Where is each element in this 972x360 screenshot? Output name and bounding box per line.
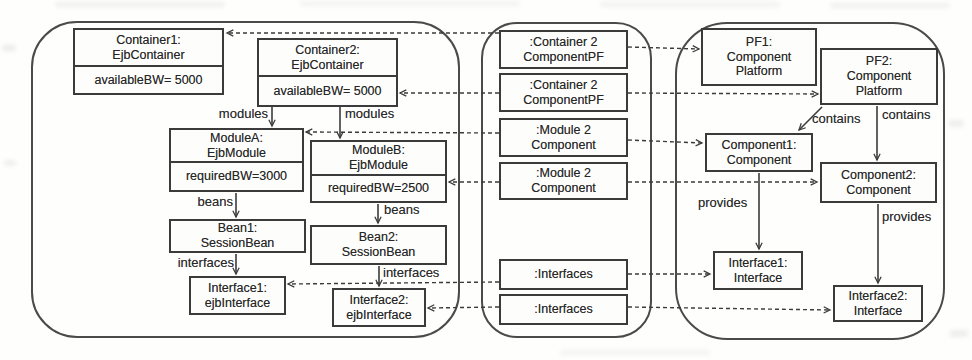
- node-moduleA-type: EjbModule: [171, 146, 302, 161]
- node-component2-name: Component2:: [822, 168, 935, 183]
- node-container2-attribute: availableBW= 5000: [259, 84, 396, 99]
- corr-box-4-line2: Component: [501, 181, 626, 196]
- node-moduleB-type: EjbModule: [312, 158, 445, 173]
- node-container2-name: Container2:: [259, 43, 396, 58]
- node-moduleB-attribute: requiredBW=2500: [312, 181, 445, 196]
- scan-artifact: [950, 330, 968, 337]
- scan-artifact: [55, 2, 225, 7]
- node-moduleA: ModuleA: EjbModule requiredBW=3000: [169, 128, 304, 192]
- node-pf1: PF1: Component Platform: [701, 28, 817, 86]
- figure-canvas: Container1: EjbContainer availableBW= 50…: [0, 0, 972, 360]
- node-moduleB-title: ModuleB: EjbModule: [312, 142, 445, 176]
- edge-label-contains-left: contains: [812, 112, 874, 126]
- node-comp-interface1: Interface1: Interface: [713, 251, 803, 290]
- node-comp-interface2-name: Interface2:: [835, 289, 921, 304]
- node-ejb-interface2: Interface2: ejbInterface: [332, 288, 426, 327]
- corr-box-container2componentpf-1: :Container 2 ComponentPF: [499, 30, 628, 69]
- node-component1-type: Component: [707, 153, 811, 168]
- corr-box-2-line1: :Container 2: [501, 78, 626, 93]
- scan-artifact: [2, 45, 16, 51]
- node-component1-name: Component1:: [707, 138, 811, 153]
- edge-label-provides-left: provides: [698, 196, 756, 210]
- corr-box-5-line1: :Interfaces: [501, 267, 626, 282]
- corr-box-container2componentpf-2: :Container 2 ComponentPF: [499, 73, 628, 112]
- node-component1: Component1: Component: [705, 133, 813, 172]
- node-ejb-interface2-type: ejbInterface: [334, 308, 424, 323]
- corr-box-1-line2: ComponentPF: [501, 50, 626, 65]
- corr-box-interfaces-1: :Interfaces: [499, 259, 628, 290]
- node-container1-type: EjbContainer: [75, 48, 222, 63]
- node-ejb-interface2-name: Interface2:: [334, 293, 424, 308]
- node-pf2-name: PF2:: [822, 54, 936, 69]
- node-bean2-name: Bean2:: [312, 230, 445, 245]
- node-moduleA-title: ModuleA: EjbModule: [171, 130, 302, 163]
- edge-label-interfaces-right: interfaces: [383, 266, 457, 280]
- edge-label-modules-right: modules: [345, 107, 415, 121]
- corr-box-3-line2: Component: [501, 138, 626, 153]
- corr-box-3-line1: :Module 2: [501, 123, 626, 138]
- edge-label-provides-right: provides: [882, 210, 942, 224]
- node-moduleA-name: ModuleA:: [171, 131, 302, 146]
- edge-label-beans-right: beans: [384, 203, 434, 217]
- node-moduleB: ModuleB: EjbModule requiredBW=2500: [310, 140, 447, 203]
- node-container2-type: EjbContainer: [259, 58, 396, 73]
- node-ejb-interface1-name: Interface1:: [191, 281, 284, 296]
- corr-box-module2component-2: :Module 2 Component: [499, 162, 628, 200]
- node-ejb-interface1: Interface1: ejbInterface: [189, 276, 286, 315]
- node-container2-title: Container2: EjbContainer: [259, 40, 396, 77]
- scan-artifact: [4, 160, 16, 166]
- node-container2-attrs: availableBW= 5000: [259, 77, 396, 105]
- node-moduleB-name: ModuleB:: [312, 143, 445, 158]
- edge-label-interfaces-left: interfaces: [160, 256, 234, 270]
- corr-box-1-line1: :Container 2: [501, 35, 626, 50]
- node-bean2-type: SessionBean: [312, 245, 445, 260]
- edge-label-beans-left: beans: [186, 195, 233, 209]
- node-moduleA-attrs: requiredBW=3000: [171, 163, 302, 190]
- corr-box-module2component-1: :Module 2 Component: [499, 118, 628, 157]
- node-container1: Container1: EjbContainer availableBW= 50…: [73, 28, 224, 95]
- node-bean2: Bean2: SessionBean: [310, 225, 447, 265]
- scan-artifact: [830, 3, 950, 8]
- node-component2: Component2: Component: [820, 162, 937, 203]
- node-comp-interface2: Interface2: Interface: [833, 285, 923, 322]
- corr-box-interfaces-2: :Interfaces: [499, 294, 628, 325]
- node-moduleB-attrs: requiredBW=2500: [312, 176, 445, 201]
- corr-box-2-line2: ComponentPF: [501, 93, 626, 108]
- node-pf1-name: PF1:: [703, 35, 815, 50]
- node-bean1: Bean1: SessionBean: [169, 219, 306, 253]
- node-container1-title: Container1: EjbContainer: [75, 30, 222, 67]
- node-pf1-type-line2: Platform: [703, 64, 815, 79]
- node-container1-attrs: availableBW= 5000: [75, 67, 222, 93]
- node-pf2: PF2: Component Platform: [820, 48, 938, 105]
- node-bean1-type: SessionBean: [171, 236, 304, 251]
- node-comp-interface2-type: Interface: [835, 304, 921, 319]
- edge-label-modules-left: modules: [198, 107, 268, 121]
- node-container2: Container2: EjbContainer availableBW= 50…: [257, 38, 398, 107]
- scan-artifact: [300, 1, 520, 6]
- node-comp-interface1-type: Interface: [715, 271, 801, 286]
- corr-box-6-line1: :Interfaces: [501, 302, 626, 317]
- node-pf2-type-line1: Component: [822, 69, 936, 84]
- scan-artifact: [600, 2, 780, 7]
- scan-artifact: [948, 120, 964, 127]
- node-container1-name: Container1:: [75, 33, 222, 48]
- node-bean1-name: Bean1:: [171, 221, 304, 236]
- node-pf1-type-line1: Component: [703, 50, 815, 65]
- corr-box-4-line1: :Module 2: [501, 166, 626, 181]
- node-ejb-interface1-type: ejbInterface: [191, 296, 284, 311]
- node-comp-interface1-name: Interface1:: [715, 256, 801, 271]
- node-container1-attribute: availableBW= 5000: [75, 73, 222, 88]
- scan-artifact: [560, 350, 710, 355]
- edge-label-contains-right: contains: [882, 108, 944, 122]
- node-moduleA-attribute: requiredBW=3000: [171, 169, 302, 184]
- node-pf2-type-line2: Platform: [822, 84, 936, 99]
- node-component2-type: Component: [822, 183, 935, 198]
